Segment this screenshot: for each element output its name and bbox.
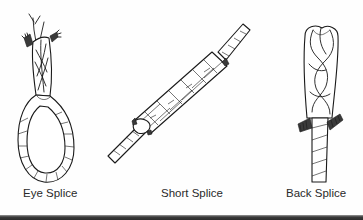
- short-splice-label: Short Splice: [161, 187, 223, 199]
- bottom-rule: [0, 215, 363, 220]
- eye-splice-label: Eye Splice: [23, 187, 77, 199]
- back-splice-label: Back Splice: [286, 187, 346, 199]
- splice-diagram: Eye Splice Short Splice Back Splice: [0, 0, 363, 220]
